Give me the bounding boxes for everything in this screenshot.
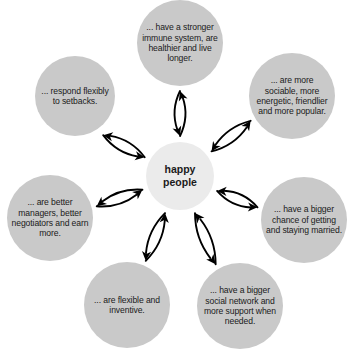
node-sociable-label: ... are more sociable, more energetic, f… bbox=[249, 75, 335, 117]
center-label: happy people bbox=[163, 163, 197, 188]
node-center-happy-people[interactable]: happy people bbox=[146, 142, 214, 210]
node-managers[interactable]: ... are better managers, better negotiat… bbox=[7, 175, 93, 261]
node-married-label: ... have a bigger chance of getting and … bbox=[261, 204, 347, 235]
node-network-label: ... have a bigger social network and mor… bbox=[197, 285, 283, 327]
node-sociable[interactable]: ... are more sociable, more energetic, f… bbox=[249, 53, 335, 139]
node-immune-label: ... have a stronger immune system, are h… bbox=[137, 22, 223, 64]
node-managers-label: ... are better managers, better negotiat… bbox=[7, 197, 93, 239]
radial-diagram: ... have a stronger immune system, are h… bbox=[0, 0, 357, 353]
node-flexible[interactable]: ... are flexible and inventive. bbox=[84, 262, 170, 348]
node-setbacks[interactable]: ... respond flexibly to setbacks. bbox=[35, 56, 115, 136]
node-flexible-label: ... are flexible and inventive. bbox=[84, 295, 170, 316]
node-immune[interactable]: ... have a stronger immune system, are h… bbox=[137, 0, 223, 86]
center-label-line1: happy bbox=[165, 163, 196, 175]
node-married[interactable]: ... have a bigger chance of getting and … bbox=[261, 177, 347, 263]
center-label-line2: people bbox=[163, 176, 197, 188]
node-setbacks-label: ... respond flexibly to setbacks. bbox=[35, 86, 115, 107]
node-network[interactable]: ... have a bigger social network and mor… bbox=[197, 263, 283, 349]
